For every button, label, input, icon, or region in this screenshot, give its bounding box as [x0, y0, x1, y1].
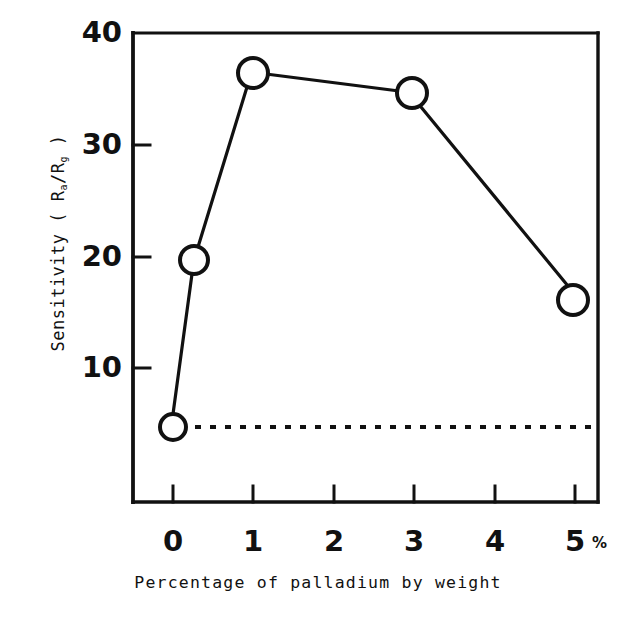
data-series-line [173, 74, 568, 414]
data-point-1 [180, 246, 208, 274]
data-point-2 [238, 58, 268, 88]
x-axis-title: Percentage of palladium by weight [0, 573, 636, 592]
y-axis-ticks [133, 145, 150, 368]
plot-area [0, 0, 636, 624]
data-point-4 [558, 285, 588, 315]
data-point-0 [160, 414, 186, 440]
segment-2-3 [266, 74, 399, 91]
chart-figure: Sensitivity ( Ra/Rg ) 40 30 20 10 0 1 2 … [0, 0, 636, 624]
segment-1-2 [198, 87, 247, 247]
data-point-3 [397, 78, 427, 108]
data-point-markers [160, 58, 588, 440]
segment-3-4 [421, 107, 568, 286]
segment-0-1 [173, 274, 192, 414]
x-axis-ticks [173, 486, 575, 502]
